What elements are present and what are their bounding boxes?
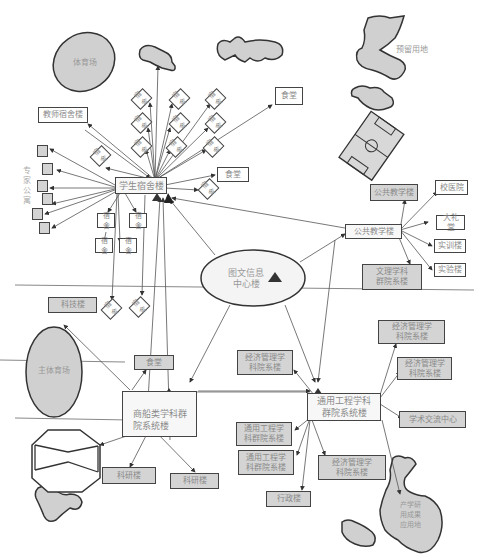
industry-research-land-label: 产学研用成果应用地: [398, 500, 422, 530]
public-teaching-gray-node[interactable]: 公共教学楼: [370, 184, 418, 201]
pond-shape: [342, 520, 375, 546]
dorm-node[interactable]: 宿舍: [95, 238, 113, 253]
econ-mgmt-line2: 科院系楼: [336, 468, 368, 478]
econ-mgmt-line1: 经济管理学: [405, 359, 445, 369]
academic-exchange-node[interactable]: 学术交流中心: [399, 411, 466, 428]
canteen-node[interactable]: 食堂: [217, 167, 249, 182]
general-eng-dept-node[interactable]: 通用工程学 科群院系楼: [238, 450, 294, 475]
dorm-node[interactable]: 宿舍: [97, 213, 115, 228]
econ-mgmt-node[interactable]: 经济管理学 科院系楼: [378, 320, 445, 344]
library-label-line2: 中心楼: [226, 279, 266, 290]
general-eng-dept-node[interactable]: 通用工程学 科群院系楼: [236, 422, 292, 446]
canteen-node[interactable]: 食堂: [275, 87, 303, 105]
shipping-dept-node[interactable]: 商船类学科群 院系统楼: [122, 391, 197, 437]
public-teaching-node[interactable]: 公共教学楼: [345, 224, 402, 239]
main-stadium-label: 主体育场: [28, 366, 80, 376]
econ-mgmt-line2: 科院系楼: [409, 369, 441, 379]
econ-mgmt-node[interactable]: 经济管理学 科院系楼: [237, 350, 293, 375]
econ-mgmt-node[interactable]: 经济管理学 科院系楼: [318, 455, 386, 480]
general-eng-node[interactable]: 通用工程学科 群院系统楼: [307, 393, 381, 421]
liberal-arts-line2: 群院系楼: [376, 277, 408, 287]
general-eng-line1: 通用工程学科: [317, 395, 371, 407]
training-building-node[interactable]: 实训楼: [434, 239, 466, 253]
lake-shape: [217, 37, 282, 62]
liberal-arts-line1: 文理学科: [376, 267, 408, 277]
liberal-arts-node[interactable]: 文理学科 群院系楼: [362, 264, 422, 290]
octagon-building-shape: [32, 430, 100, 492]
canteen-node[interactable]: 食堂: [134, 355, 174, 370]
reserved-land-label: 预留用地: [392, 45, 432, 55]
expert-apartment-node[interactable]: [42, 163, 53, 175]
library-label-line1: 图文信息: [226, 268, 266, 279]
general-eng-dept-line1: 通用工程学: [246, 453, 286, 463]
general-eng-dept-line2: 科群院系楼: [246, 463, 286, 473]
landmark-triangle-icon: [152, 193, 162, 201]
general-eng-line2: 群院系统楼: [322, 407, 367, 419]
econ-mgmt-line1: 经济管理学: [392, 322, 432, 332]
dorm-node[interactable]: 宿舍: [129, 213, 147, 228]
econ-mgmt-line1: 经济管理学: [332, 458, 372, 468]
teacher-dorm-node[interactable]: 教师宿舍楼: [38, 107, 88, 123]
expert-apartment-node[interactable]: [32, 208, 43, 220]
pond-shape: [139, 46, 175, 71]
library-label[interactable]: 图文信息 中心楼: [226, 268, 266, 290]
admin-building-node[interactable]: 行政楼: [266, 491, 311, 507]
expert-apartment-node[interactable]: [37, 145, 48, 157]
auditorium-node[interactable]: 大礼堂: [436, 215, 465, 230]
research-building-node[interactable]: 科研楼: [102, 467, 156, 484]
lab-building-node[interactable]: 实验楼: [434, 263, 466, 277]
science-building-node[interactable]: 科技楼: [48, 297, 97, 313]
shipping-dept-line1: 商船类学科群: [133, 408, 187, 420]
expert-apartment-label: 专家公寓: [22, 166, 32, 206]
student-dorm-node[interactable]: 学生宿舍楼: [115, 177, 167, 194]
general-eng-dept-line1: 通用工程学: [244, 424, 284, 434]
dorm-node[interactable]: 宿舍: [119, 238, 137, 253]
expert-apartment-node[interactable]: [42, 193, 53, 205]
econ-mgmt-line2: 科院系楼: [249, 363, 281, 373]
shipping-dept-line2: 院系统楼: [133, 420, 169, 432]
general-eng-dept-line2: 科群院系楼: [244, 434, 284, 444]
econ-mgmt-line1: 经济管理学: [245, 353, 285, 363]
hospital-node[interactable]: 校医院: [435, 180, 468, 195]
econ-mgmt-line2: 科院系楼: [396, 332, 428, 342]
zone-divider-line: [15, 418, 130, 420]
econ-mgmt-node[interactable]: 经济管理学 科院系楼: [397, 357, 452, 380]
stadium-label: 体育场: [68, 58, 102, 68]
expert-apartment-node[interactable]: [39, 222, 50, 234]
expert-apartment-node[interactable]: [37, 180, 48, 192]
research-building-node[interactable]: 科研楼: [170, 473, 219, 489]
pond-shape: [351, 86, 393, 110]
soccer-field-icon: [339, 111, 404, 180]
